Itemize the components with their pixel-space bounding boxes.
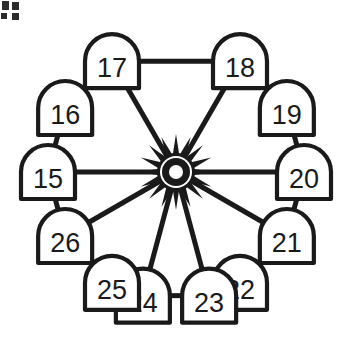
node-17-label: 17: [97, 53, 127, 83]
node-20-label: 20: [289, 164, 319, 194]
node-16-label: 16: [50, 100, 80, 130]
node-18[interactable]: 18: [213, 34, 267, 88]
node-19[interactable]: 19: [260, 81, 314, 135]
node-26[interactable]: 26: [38, 209, 92, 263]
node-15[interactable]: 15: [21, 145, 75, 199]
node-18-label: 18: [225, 53, 255, 83]
node-17[interactable]: 17: [85, 34, 139, 88]
corner-label-mark: [1, 1, 19, 20]
figure-canvas: 151617181920212223242526: [0, 0, 351, 346]
node-21-label: 21: [272, 228, 302, 258]
node-15-label: 15: [33, 164, 63, 194]
node-20[interactable]: 20: [277, 145, 331, 199]
corner-label-fragment: [12, 13, 19, 20]
starburst-hub-icon: [138, 134, 214, 210]
node-23-label: 23: [194, 288, 224, 318]
corner-label-fragment: [2, 1, 9, 10]
network-diagram: 151617181920212223242526: [0, 0, 351, 346]
node-25-label: 25: [97, 275, 127, 305]
corner-label-fragment: [12, 2, 19, 10]
node-26-label: 26: [50, 228, 80, 258]
hub-core: [169, 165, 183, 179]
node-21[interactable]: 21: [260, 209, 314, 263]
node-19-label: 19: [272, 100, 302, 130]
node-23[interactable]: 23: [182, 269, 236, 323]
corner-label-fragment: [1, 13, 7, 19]
